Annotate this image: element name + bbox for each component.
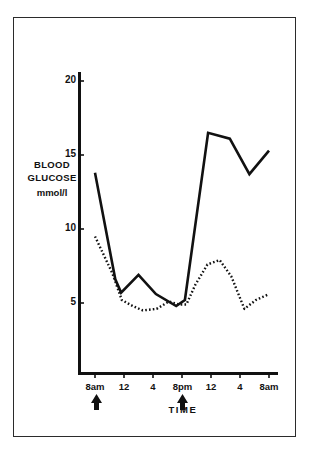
y-axis-title-line1: BLOOD GLUCOSE [22,159,82,184]
x-axis-title: TIME [140,404,226,415]
x-tick-label-4: 12 [195,381,227,392]
y-axis-title: BLOOD GLUCOSE mmol/l [22,159,82,200]
x-tick-label-1: 12 [108,381,140,392]
series-dotted-line [95,236,269,310]
y-axis-units: mmol/l [22,187,82,200]
y-tick-label-15: 15 [52,148,76,159]
arrow-marker-morning-icon [91,394,102,410]
y-tick-label-10: 10 [52,222,76,233]
y-tick-label-20: 20 [52,74,76,85]
series-solid-line [95,133,269,306]
x-tick-label-6: 8am [251,381,287,392]
chart-figure: 20 15 10 5 BLOOD GLUCOSE mmol/l 8am 12 4… [0,0,313,454]
y-tick-label-5: 5 [52,296,76,307]
